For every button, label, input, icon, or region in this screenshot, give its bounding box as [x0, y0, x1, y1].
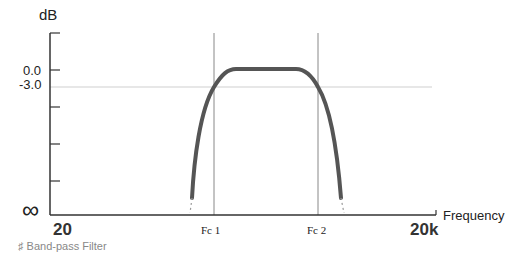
figure-caption: ♯ Band-pass Filter — [18, 240, 107, 252]
y-axis-label: dB — [39, 6, 57, 23]
y-tick-infinity: ∞ — [22, 198, 39, 222]
x-tick-fc2: Fc 2 — [307, 224, 326, 236]
y-tick-0db: 0.0 — [23, 63, 41, 78]
band-pass-chart — [0, 0, 520, 258]
y-tick-minus3db: -3.0 — [19, 77, 41, 92]
x-tick-20k: 20k — [410, 220, 438, 240]
x-tick-fc1: Fc 1 — [201, 224, 220, 236]
x-tick-20: 20 — [53, 220, 72, 240]
x-axis-label: Frequency — [443, 208, 504, 223]
